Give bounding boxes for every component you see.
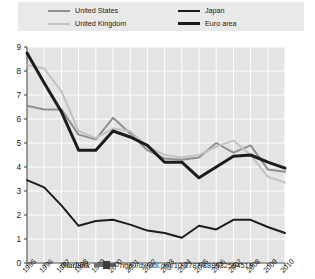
chart-legend: United States United Kingdom Japan Euro … [18, 2, 304, 31]
y-axis-tick-label: 7 [5, 91, 21, 99]
legend-item-euro-area: Euro area [178, 18, 237, 29]
legend-column-right: Japan Euro area [178, 5, 237, 31]
legend-column-left: United States United Kingdom [48, 5, 126, 31]
y-axis-tick-label: 1 [5, 235, 21, 243]
y-axis-tick-label: 8 [5, 67, 21, 75]
chart-lines-svg [0, 36, 315, 279]
legend-line-swatch-icon [178, 22, 200, 25]
legend-line-swatch-icon [178, 10, 200, 12]
statlink-url[interactable]: http://dx.doi.org/10.1787/888932504519 [120, 261, 253, 270]
chart-series-lines [27, 53, 285, 238]
statlink-label: StatLink [62, 261, 90, 270]
y-axis-tick-label: 3 [5, 187, 21, 195]
chart-plot-wrapper: 0123456789 19951996199719981999200020012… [0, 36, 315, 236]
y-axis-tick-label: 5 [5, 139, 21, 147]
legend-line-swatch-icon [48, 10, 70, 12]
statlink-barcode-icon [94, 261, 116, 269]
statlink-footer: StatLink http://dx.doi.org/10.1787/88893… [0, 258, 315, 272]
chart-figure: United States United Kingdom Japan Euro … [0, 0, 315, 279]
legend-label: United States [75, 6, 118, 15]
y-axis-tick-label: 9 [5, 43, 21, 51]
chart-line-japan [27, 180, 285, 238]
y-axis-tick-label: 6 [5, 115, 21, 123]
y-axis-tick-label: 2 [5, 211, 21, 219]
legend-line-swatch-icon [48, 23, 70, 25]
chart-line-united-states [27, 106, 285, 172]
legend-item-united-kingdom: United Kingdom [48, 18, 126, 29]
legend-item-japan: Japan [178, 5, 237, 16]
legend-label: Japan [205, 6, 225, 15]
legend-label: Euro area [205, 19, 237, 28]
legend-item-united-states: United States [48, 5, 126, 16]
legend-label: United Kingdom [75, 19, 126, 28]
y-axis-tick-label: 4 [5, 163, 21, 171]
